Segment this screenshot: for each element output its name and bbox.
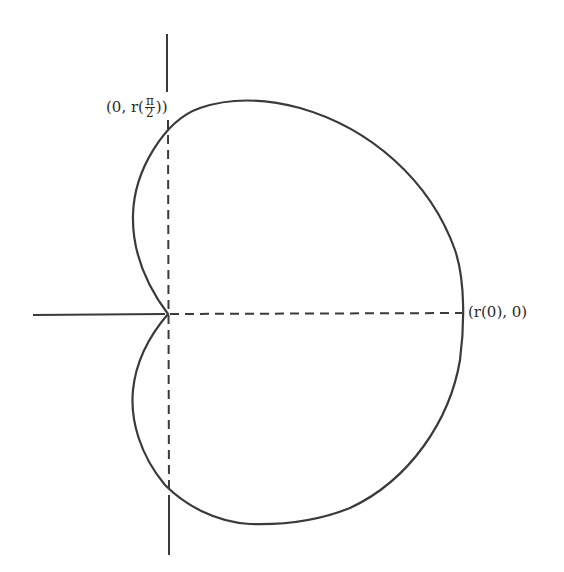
top-point-label: (0, r(π2)) bbox=[106, 96, 168, 119]
x-axis-negative bbox=[33, 314, 165, 315]
top-point-label-close: )) bbox=[156, 98, 168, 116]
y-axis-dashed bbox=[168, 120, 169, 497]
pi-over-2-fraction: π2 bbox=[145, 96, 155, 119]
fraction-denominator: 2 bbox=[145, 108, 155, 119]
x-axis-dashed-radius bbox=[170, 313, 462, 314]
right-point-label: (r(0), 0) bbox=[468, 303, 527, 321]
top-point-label-open: (0, r( bbox=[106, 98, 144, 116]
cardioid-diagram bbox=[0, 0, 564, 572]
